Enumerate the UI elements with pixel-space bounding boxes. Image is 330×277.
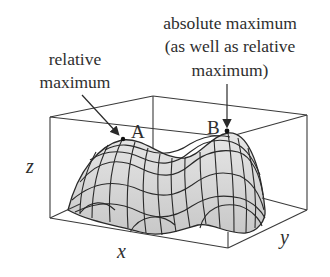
- absolute-max-label-line3: maximum): [192, 60, 269, 80]
- relative-max-label-line1: relative: [49, 49, 102, 69]
- point-b-label: B: [207, 117, 220, 138]
- x-axis-label: x: [116, 240, 126, 262]
- absolute-max-label-line2: (as well as relative: [165, 36, 296, 56]
- y-axis-label: y: [278, 226, 289, 249]
- z-axis-label: z: [25, 155, 34, 177]
- point-a-marker: [121, 137, 125, 141]
- relative-max-label-line2: maximum: [40, 72, 111, 92]
- surface-diagram: absolute maximum (as well as relative ma…: [0, 0, 330, 277]
- absolute-max-label-line1: absolute maximum: [163, 13, 297, 33]
- point-a-label: A: [131, 121, 145, 142]
- arrow-to-a-icon: [82, 95, 118, 134]
- point-b-marker: [225, 129, 230, 134]
- surface: [68, 133, 265, 235]
